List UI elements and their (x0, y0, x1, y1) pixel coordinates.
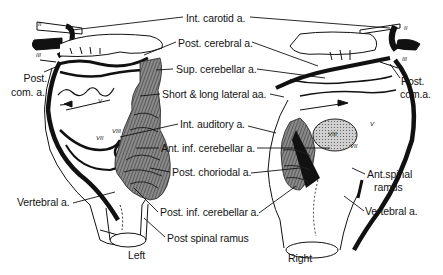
label-right-vertebral-artery: Vertebral a. (365, 205, 418, 217)
label-sup-cerebellar-artery: Sup. cerebellar a. (176, 63, 257, 75)
svg-text:II: II (404, 25, 408, 31)
label-ant-inf-cerebellar-artery: Ant. inf. cerebellar a. (161, 142, 255, 154)
left-cerebellum-shading (115, 58, 170, 200)
label-right-post-com-line2: com.a. (400, 88, 431, 100)
svg-text:VII: VII (350, 143, 358, 149)
label-right-post-com-line1: Post. (401, 75, 424, 87)
label-post-cerebral-artery: Post. cerebral a. (178, 37, 253, 49)
label-post-inf-cerebellar-artery: Post. inf. cerebellar a. (160, 206, 259, 218)
svg-text:II: II (38, 21, 42, 27)
label-left-vertebral-artery: Vertebral a. (17, 196, 70, 208)
label-post-choroidal-artery: Post. choriodal a. (172, 166, 251, 178)
svg-text:VIII: VIII (328, 131, 337, 137)
svg-text:V: V (98, 98, 103, 104)
label-int-carotid-artery: Int. carotid a. (186, 12, 245, 24)
svg-text:III: III (402, 56, 407, 62)
svg-text:III: III (36, 52, 41, 58)
label-int-auditory-artery: Int. auditory a. (180, 118, 245, 130)
view-label-right: Right (288, 252, 312, 264)
anatomy-diagram: II III V VII VI (0, 0, 443, 275)
label-short-long-lateral-arteries: Short & long lateral aa. (162, 88, 266, 100)
label-left-post-com-line2: com. a. (11, 86, 45, 98)
label-left-post-com-line1: Post. (19, 72, 47, 84)
label-right-ant-spinal-line1: Ant.spinal (367, 168, 412, 180)
svg-text:VIII: VIII (112, 128, 121, 134)
label-post-spinal-ramus: Post spinal ramus (167, 232, 249, 244)
label-right-ant-spinal-line2: ramus (374, 181, 403, 193)
svg-text:VII: VII (96, 135, 104, 141)
view-label-left: Left (128, 249, 145, 261)
svg-text:V: V (370, 121, 375, 127)
